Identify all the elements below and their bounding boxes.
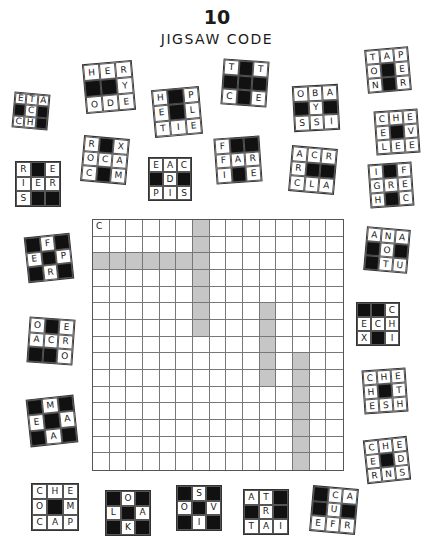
grid-cell[interactable] [326,237,343,254]
grid-cell[interactable] [176,387,193,404]
jigsaw-piece[interactable]: ATRTAI [243,489,289,535]
grid-cell-shaded[interactable] [293,403,310,420]
grid-cell[interactable] [243,370,260,387]
grid-cell[interactable] [276,287,293,304]
grid-cell[interactable] [326,437,343,454]
grid-cell[interactable] [160,353,177,370]
grid-cell[interactable] [226,220,243,237]
grid-cell[interactable] [243,287,260,304]
grid-cell[interactable] [226,303,243,320]
grid-cell[interactable] [243,320,260,337]
grid-cell[interactable] [110,320,127,337]
grid-cell[interactable] [326,253,343,270]
grid-cell[interactable] [160,437,177,454]
grid-cell-shaded[interactable] [193,270,210,287]
jigsaw-piece[interactable]: CECHXI [356,302,400,346]
grid-cell[interactable] [176,403,193,420]
jigsaw-piece[interactable]: TTCE [220,58,269,107]
grid-cell-shaded[interactable] [93,253,110,270]
grid-cell[interactable] [243,337,260,354]
grid-cell[interactable] [110,337,127,354]
grid-cell[interactable] [326,387,343,404]
grid-cell[interactable] [126,353,143,370]
grid-cell[interactable] [243,270,260,287]
grid-cell[interactable] [193,337,210,354]
grid-cell[interactable] [93,453,110,470]
grid-cell[interactable] [160,220,177,237]
grid-cell[interactable] [93,337,110,354]
grid-cell[interactable] [310,403,327,420]
grid-cell[interactable] [160,320,177,337]
grid-cell[interactable] [276,237,293,254]
grid-cell[interactable] [276,353,293,370]
jigsaw-piece[interactable]: HERYODE [82,60,136,114]
grid-cell[interactable] [126,437,143,454]
grid-cell[interactable] [293,320,310,337]
jigsaw-piece[interactable]: CHEOMCAP [31,483,79,531]
grid-cell-shaded[interactable] [293,453,310,470]
grid-cell[interactable] [310,387,327,404]
grid-cell[interactable] [93,287,110,304]
grid-cell[interactable] [93,237,110,254]
grid-cell[interactable] [293,287,310,304]
grid-cell[interactable] [210,220,227,237]
grid-cell[interactable] [226,320,243,337]
grid-cell[interactable] [176,320,193,337]
grid-cell[interactable] [210,320,227,337]
grid-cell[interactable] [110,353,127,370]
grid-cell[interactable] [160,420,177,437]
grid-cell[interactable] [210,253,227,270]
grid-cell[interactable] [226,287,243,304]
grid-cell[interactable] [176,337,193,354]
grid-cell[interactable] [276,403,293,420]
grid-cell-shaded[interactable] [293,387,310,404]
grid-cell[interactable] [126,420,143,437]
grid-cell[interactable] [243,387,260,404]
grid-cell[interactable] [193,403,210,420]
grid-cell[interactable] [226,270,243,287]
grid-cell[interactable] [143,387,160,404]
grid-cell-shaded[interactable] [160,253,177,270]
grid-cell[interactable] [126,220,143,237]
grid-cell[interactable] [260,237,277,254]
jigsaw-piece[interactable]: FFARIE [213,135,262,184]
grid-cell[interactable] [260,387,277,404]
grid-cell[interactable] [176,270,193,287]
grid-cell[interactable] [276,420,293,437]
grid-cell-shaded[interactable] [176,253,193,270]
grid-cell[interactable] [243,437,260,454]
grid-cell[interactable] [110,387,127,404]
grid-cell[interactable] [210,420,227,437]
grid-cell[interactable] [143,437,160,454]
jigsaw-piece[interactable]: OBAYSSI [292,84,340,132]
grid-cell[interactable] [143,403,160,420]
grid-cell[interactable] [310,270,327,287]
grid-cell[interactable] [126,370,143,387]
grid-cell[interactable] [226,453,243,470]
jigsaw-piece[interactable]: HPELTIE [151,86,203,138]
grid-cell[interactable] [143,303,160,320]
grid-cell[interactable] [160,370,177,387]
grid-cell[interactable] [210,287,227,304]
grid-cell[interactable] [310,337,327,354]
grid-cell[interactable] [93,370,110,387]
grid-cell[interactable] [293,253,310,270]
grid-cell[interactable] [160,387,177,404]
grid-cell[interactable] [110,220,127,237]
grid-cell[interactable] [310,453,327,470]
grid-cell[interactable] [210,403,227,420]
grid-cell[interactable] [310,320,327,337]
grid-cell[interactable] [260,453,277,470]
grid-cell[interactable] [160,287,177,304]
grid-cell-shaded[interactable] [143,253,160,270]
grid-cell[interactable] [160,237,177,254]
grid-cell-shaded[interactable] [193,237,210,254]
grid-cell-shaded[interactable] [260,303,277,320]
grid-cell[interactable] [276,387,293,404]
grid-cell-shaded[interactable] [126,253,143,270]
grid-cell[interactable] [176,287,193,304]
grid-cell[interactable] [243,220,260,237]
grid-cell[interactable] [276,437,293,454]
jigsaw-piece[interactable]: REIERS [15,161,61,207]
grid-cell[interactable] [110,437,127,454]
